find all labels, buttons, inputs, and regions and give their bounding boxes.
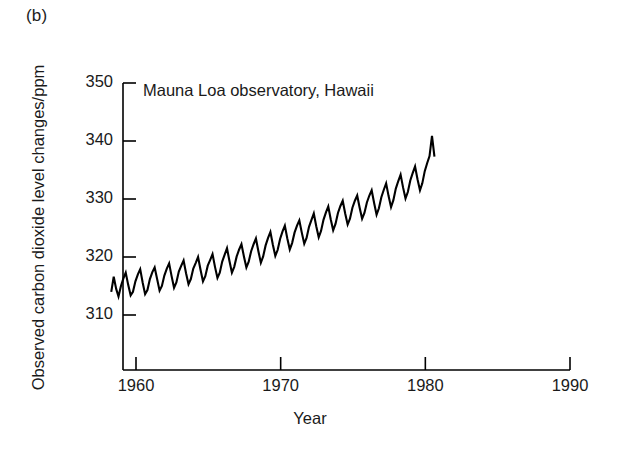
plot-area <box>0 0 620 457</box>
y-axis-ticks <box>123 83 136 315</box>
co2-data-series <box>111 136 434 297</box>
x-axis-ticks <box>136 357 570 370</box>
axis-lines <box>123 83 570 370</box>
figure-panel-b: (b) Observed carbon dioxide level change… <box>0 0 620 457</box>
